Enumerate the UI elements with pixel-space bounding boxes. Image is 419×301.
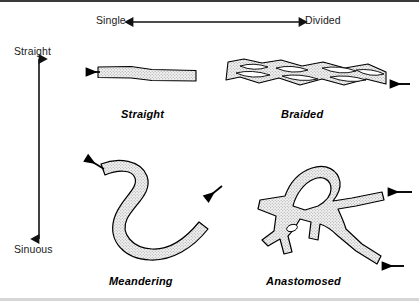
figure-meandering: [86, 158, 222, 260]
figure-label-meandering: Meandering: [109, 275, 173, 287]
meandering-inflow-arrow: [206, 186, 222, 199]
figure-straight: [86, 67, 196, 82]
figure-label-straight: Straight: [121, 108, 164, 120]
straight-channel-band: [98, 67, 196, 82]
anastomosed-network: [258, 166, 384, 264]
figure-braided: [226, 59, 410, 85]
figure-label-anastomosed: Anastomosed: [266, 275, 341, 287]
diagram-canvas: Single Divided Straight Sinuous: [0, 0, 419, 301]
meandering-channel-band: [101, 160, 208, 260]
channel-figures-layer: [0, 0, 419, 301]
figure-label-braided: Braided: [281, 108, 323, 120]
figure-anastomosed: [258, 166, 412, 266]
